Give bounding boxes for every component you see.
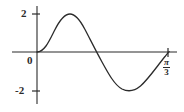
y-axis-max-label: 2 [21, 8, 27, 19]
sine-curve-figure: 2 -2 0 π 3 [0, 0, 184, 112]
fraction-pi-over-three: π 3 [163, 58, 170, 78]
origin-label: 0 [27, 55, 33, 66]
fraction-numerator: π [163, 58, 170, 67]
fraction-denominator: 3 [163, 68, 170, 77]
x-axis-max-label: π 3 [163, 58, 170, 78]
y-axis-min-label: -2 [15, 85, 24, 96]
